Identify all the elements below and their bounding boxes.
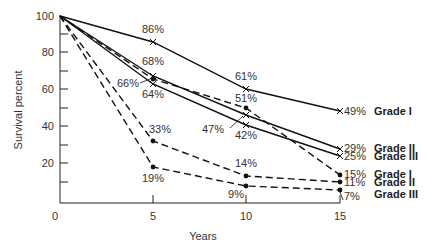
label-dashed-2-y15: 11% (344, 176, 365, 188)
y-axis-title: Survival percent (12, 71, 24, 150)
label-solid-3-y5: 64% (142, 88, 164, 100)
x-axis-title: Years (189, 230, 217, 242)
label-dashed-3-y15: 7% (344, 190, 360, 202)
line-dashed-grade-3 (60, 16, 340, 190)
line-solid-grade-1 (60, 16, 340, 111)
ytick-100: 100 (36, 10, 54, 22)
label-dashed-1-y10: 51% (235, 92, 257, 104)
x-marker-icon (243, 112, 249, 118)
xtick-15: 15 (334, 210, 346, 222)
legend-dashed-grade-3: Grade III (374, 188, 418, 200)
dot-marker-icon (338, 188, 343, 193)
dot-marker-icon (338, 180, 343, 185)
dot-marker-icon (244, 106, 249, 111)
label-dashed-2-y5: 33% (149, 123, 171, 135)
label-solid-2-y5: 68% (142, 55, 164, 67)
xtick-10: 10 (240, 210, 252, 222)
x-marker-icon (337, 146, 343, 152)
label-solid-3-y15: 25% (344, 150, 366, 162)
line-dashed-grade-2 (60, 16, 340, 182)
xtick-0: 0 (52, 210, 58, 222)
ytick-20: 20 (42, 157, 54, 169)
label-dashed-2-y10: 14% (235, 157, 257, 169)
legend-dashed-grade-2: Grade II (374, 176, 415, 188)
label-solid-3-y10: 42% (235, 129, 257, 141)
dot-marker-icon (151, 77, 156, 82)
ytick-80: 80 (42, 46, 54, 58)
survival-chart: 100 80 60 40 20 0 5 10 15 Years Survival… (0, 0, 427, 249)
dot-marker-icon (244, 184, 249, 189)
legend-solid-grade-1: Grade I (374, 105, 412, 117)
label-dashed-3-y10: 9% (228, 188, 244, 200)
dot-marker-icon (151, 165, 156, 170)
dashed-series (60, 16, 340, 190)
label-dashed-3-y5: 19% (142, 172, 164, 184)
dot-marker-icon (338, 173, 343, 178)
xtick-5: 5 (150, 210, 156, 222)
line-solid-grade-3 (60, 16, 340, 156)
solid-series (60, 16, 340, 156)
label-dashed-1-y5: 66% (117, 77, 139, 89)
legend-solid-grade-3: Grade III (374, 150, 418, 162)
label-solid-1-y10: 61% (235, 70, 257, 82)
line-solid-grade-2 (60, 16, 340, 149)
x-marker-icon (150, 81, 156, 87)
ytick-40: 40 (42, 120, 54, 132)
label-solid-1-y15: 49% (344, 105, 366, 117)
label-solid-1-y5: 86% (142, 23, 164, 35)
dot-marker-icon (151, 139, 156, 144)
label-solid-2-y10: 47% (202, 123, 224, 135)
ytick-60: 60 (42, 83, 54, 95)
dot-marker-icon (244, 174, 249, 179)
